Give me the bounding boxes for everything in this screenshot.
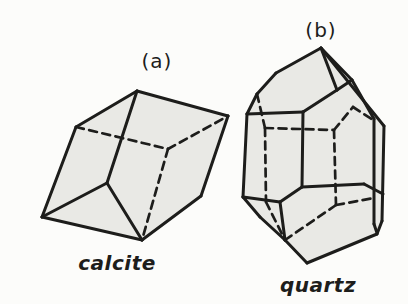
quartz-caption: quartz <box>280 273 356 297</box>
quartz-edge <box>382 126 384 221</box>
calcite-faces <box>42 91 228 240</box>
panel-b-label: (b) <box>305 18 336 42</box>
figure-canvas: (a) (b) calcite quartz <box>0 0 408 304</box>
calcite-drawing <box>42 91 228 240</box>
quartz-edge <box>302 112 303 187</box>
quartz-edge <box>247 112 303 114</box>
calcite-caption: calcite <box>78 251 156 275</box>
crystal-figure <box>0 0 408 304</box>
panel-a-label: (a) <box>142 49 173 73</box>
quartz-drawing <box>243 48 384 263</box>
